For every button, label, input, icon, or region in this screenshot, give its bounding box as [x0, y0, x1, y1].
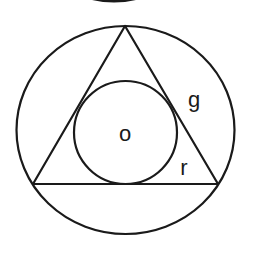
label-center-o: o [119, 121, 131, 146]
label-radius-r: r [180, 155, 187, 180]
geometry-diagram: o g r [0, 0, 254, 258]
label-slant-g: g [188, 87, 200, 112]
top-partial-arc [92, 0, 136, 3]
